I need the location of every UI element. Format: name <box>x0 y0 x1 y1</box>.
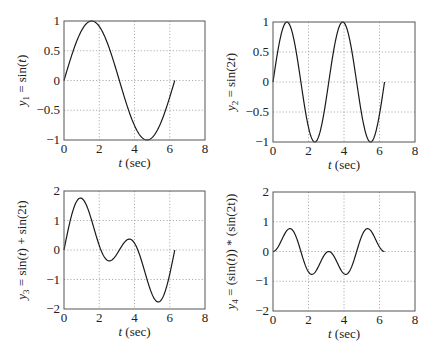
x-tick-label: 4 <box>341 312 348 327</box>
y-tick-label: −1 <box>255 273 269 288</box>
y-axis-label: y2 = sin(2t) <box>223 53 240 113</box>
y-tick-label: 0 <box>263 244 270 259</box>
x-tick-label: 6 <box>167 141 174 156</box>
x-tick-label: 8 <box>202 310 209 325</box>
x-tick-label: 0 <box>270 312 277 327</box>
x-tick-label: 4 <box>131 141 138 156</box>
x-tick-label: 8 <box>412 312 419 327</box>
y-tick-label: −1 <box>46 272 60 287</box>
y-tick-label: −0.5 <box>36 102 60 117</box>
y-tick-label: 1 <box>263 14 270 29</box>
y-axis-label: y3 = sin(t) + sin(2t) <box>14 200 31 301</box>
y-tick-label: 0 <box>54 242 61 257</box>
x-tick-label: 4 <box>131 310 138 325</box>
x-tick-label: 0 <box>270 143 277 158</box>
y-tick-label: 1 <box>263 214 270 229</box>
figure: 02468−1−0.500.51t (sec)y1 = sin(t)02468−… <box>0 0 437 354</box>
y-tick-label: −1 <box>46 132 60 147</box>
y-axis-label: y1 = sin(t) <box>14 55 31 109</box>
y-tick-label: −2 <box>46 301 60 316</box>
y-tick-label: 0.5 <box>44 43 60 58</box>
x-tick-label: 6 <box>376 312 383 327</box>
y-tick-label: −1 <box>255 134 269 149</box>
x-tick-label: 2 <box>305 312 312 327</box>
subplot-4: 02468−2−1012t (sec)y4 = (sin(t)) * (sin(… <box>223 184 418 341</box>
x-axis-label: t (sec) <box>118 324 150 339</box>
subplot-2: 02468−1−0.500.51t (sec)y2 = sin(2t) <box>223 14 418 172</box>
x-axis-label: t (sec) <box>328 326 360 341</box>
y-tick-label: 0 <box>263 74 270 89</box>
x-tick-label: 0 <box>61 310 68 325</box>
y-tick-label: 2 <box>263 184 270 199</box>
x-tick-label: 0 <box>61 141 68 156</box>
y-tick-label: 1 <box>54 13 61 28</box>
x-tick-label: 4 <box>341 143 348 158</box>
y-tick-label: 0.5 <box>253 44 269 59</box>
x-tick-label: 2 <box>305 143 312 158</box>
y-tick-label: 1 <box>54 213 61 228</box>
x-tick-label: 6 <box>167 310 174 325</box>
y-tick-label: −2 <box>255 303 269 318</box>
y-tick-label: 2 <box>54 183 61 198</box>
x-tick-label: 2 <box>96 310 103 325</box>
x-axis-label: t (sec) <box>328 157 360 172</box>
y-tick-label: −0.5 <box>245 104 269 119</box>
x-tick-label: 8 <box>202 141 209 156</box>
x-tick-label: 8 <box>412 143 419 158</box>
subplot-3: 02468−2−1012t (sec)y3 = sin(t) + sin(2t) <box>14 183 208 339</box>
y-tick-label: 0 <box>54 73 61 88</box>
y-axis-label: y4 = (sin(t)) * (sin(2t)) <box>223 194 240 312</box>
x-tick-label: 6 <box>376 143 383 158</box>
x-tick-label: 2 <box>96 141 103 156</box>
x-axis-label: t (sec) <box>118 155 150 170</box>
subplot-1: 02468−1−0.500.51t (sec)y1 = sin(t) <box>14 13 208 170</box>
